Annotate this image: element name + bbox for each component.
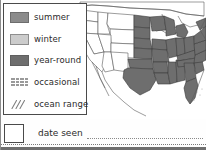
bottom-edge-bar bbox=[0, 147, 206, 150]
ocean-range-hatch-swatch-icon bbox=[10, 99, 29, 110]
legend-label-occasional: occasional bbox=[34, 78, 80, 87]
legend-panel: summer winter year-round occasional bbox=[3, 3, 87, 115]
date-seen-write-line[interactable] bbox=[87, 137, 203, 139]
occasional-stipple-swatch-icon bbox=[10, 77, 29, 88]
legend-item-ocean-range[interactable]: ocean range bbox=[4, 93, 86, 115]
legend-item-winter[interactable]: winter bbox=[4, 28, 86, 50]
year-round-swatch-icon bbox=[10, 55, 29, 66]
legend-label-ocean-range: ocean range bbox=[34, 100, 88, 109]
legend-label-summer: summer bbox=[34, 13, 70, 22]
left-edge-line bbox=[0, 0, 1, 150]
us-range-map: .st { fill:#ffffff; stroke:#5a5a5a; stro… bbox=[78, 0, 206, 119]
legend-list: summer winter year-round occasional bbox=[4, 4, 86, 114]
bottom-dotted-divider bbox=[0, 143, 206, 145]
date-seen-label: date seen bbox=[38, 128, 83, 138]
date-seen-checkbox[interactable] bbox=[4, 124, 24, 143]
legend-label-winter: winter bbox=[34, 35, 61, 44]
legend-item-year-round[interactable]: year-round bbox=[4, 49, 86, 71]
summer-swatch-icon bbox=[10, 12, 29, 23]
legend-item-summer[interactable]: summer bbox=[4, 6, 86, 28]
legend-item-occasional[interactable]: occasional bbox=[4, 71, 86, 93]
range-map-legend-page: .st { fill:#ffffff; stroke:#5a5a5a; stro… bbox=[0, 0, 206, 150]
legend-label-year-round: year-round bbox=[34, 56, 81, 65]
winter-swatch-icon bbox=[10, 34, 29, 45]
